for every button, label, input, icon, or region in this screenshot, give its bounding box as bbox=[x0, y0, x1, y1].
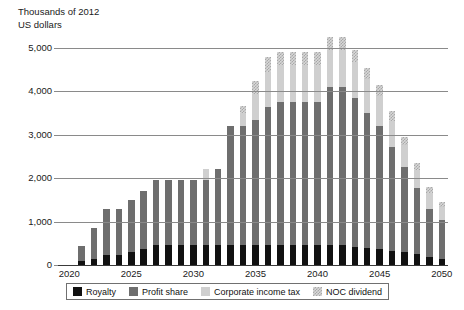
bar-segment-royalty bbox=[401, 252, 407, 265]
bar-segment-profit-share bbox=[252, 120, 258, 246]
gridline-4000 bbox=[63, 91, 448, 92]
bar-2037 bbox=[277, 52, 283, 265]
bar-segment-noc-dividend bbox=[314, 52, 320, 65]
bar-2040 bbox=[314, 52, 320, 265]
bar-segment-profit-share bbox=[376, 126, 382, 249]
bar-segment-royalty bbox=[327, 245, 333, 265]
bar-segment-noc-dividend bbox=[277, 52, 283, 65]
bar-segment-corporate-income-tax bbox=[439, 207, 445, 220]
x-tick-label-2035: 2035 bbox=[245, 268, 266, 279]
bar-segment-royalty bbox=[352, 247, 358, 265]
y-tick-label-3000: 3,000 bbox=[0, 129, 52, 140]
legend-label: Royalty bbox=[86, 287, 116, 297]
bar-2039 bbox=[302, 52, 308, 265]
bar-2023 bbox=[103, 209, 109, 265]
bar-2038 bbox=[290, 52, 296, 265]
bar-segment-royalty bbox=[227, 245, 233, 265]
bar-segment-profit-share bbox=[190, 180, 196, 246]
bar-segment-royalty bbox=[339, 245, 345, 265]
bar-segment-corporate-income-tax bbox=[265, 72, 271, 107]
bar-segment-profit-share bbox=[277, 102, 283, 245]
bar-segment-profit-share bbox=[78, 246, 84, 261]
bar-2041 bbox=[327, 37, 333, 265]
y-tick-label-4000: 4,000 bbox=[0, 85, 52, 96]
legend-item-royalty[interactable]: Royalty bbox=[73, 287, 116, 297]
legend-swatch-icon bbox=[129, 287, 138, 296]
plot-area bbox=[63, 48, 448, 265]
bar-segment-royalty bbox=[203, 245, 209, 265]
bar-2021 bbox=[78, 246, 84, 265]
gridline-3000 bbox=[63, 135, 448, 136]
gridline-5000 bbox=[63, 48, 448, 49]
bar-segment-corporate-income-tax bbox=[401, 145, 407, 168]
bar-2042 bbox=[339, 37, 345, 265]
x-axis-line bbox=[58, 265, 448, 266]
bar-segment-corporate-income-tax bbox=[240, 113, 246, 126]
legend-item-corporate-income-tax[interactable]: Corporate income tax bbox=[201, 287, 300, 297]
bar-segment-profit-share bbox=[165, 180, 171, 246]
y-tick-label-1000: 1,000 bbox=[0, 216, 52, 227]
bar-segment-corporate-income-tax bbox=[352, 62, 358, 98]
bar-2049 bbox=[426, 187, 432, 265]
bar-segment-profit-share bbox=[314, 102, 320, 245]
legend-swatch-icon bbox=[313, 287, 322, 296]
bar-segment-corporate-income-tax bbox=[339, 50, 345, 87]
bar-segment-noc-dividend bbox=[240, 106, 246, 113]
bar-segment-corporate-income-tax bbox=[277, 65, 283, 102]
x-tick-label-2020: 2020 bbox=[59, 268, 80, 279]
bar-segment-profit-share bbox=[364, 113, 370, 248]
y-tick-label-2000: 2,000 bbox=[0, 172, 52, 183]
legend-swatch-icon bbox=[73, 287, 82, 296]
bar-segment-royalty bbox=[302, 245, 308, 265]
bar-2031 bbox=[203, 169, 209, 265]
bar-2043 bbox=[352, 50, 358, 265]
bar-2032 bbox=[215, 169, 221, 265]
bar-segment-profit-share bbox=[203, 180, 209, 246]
y-tick-mark-3000 bbox=[54, 135, 63, 136]
bar-2026 bbox=[140, 191, 146, 265]
bar-2025 bbox=[128, 200, 134, 265]
bar-segment-noc-dividend bbox=[290, 52, 296, 65]
bar-segment-profit-share bbox=[153, 180, 159, 246]
bar-segment-profit-share bbox=[178, 180, 184, 246]
bar-segment-corporate-income-tax bbox=[426, 193, 432, 208]
legend-label: NOC dividend bbox=[326, 287, 382, 297]
bar-segment-noc-dividend bbox=[352, 50, 358, 62]
bar-2022 bbox=[91, 228, 97, 265]
bar-segment-royalty bbox=[364, 248, 370, 265]
bar-segment-noc-dividend bbox=[414, 163, 420, 170]
bar-segment-royalty bbox=[140, 249, 146, 265]
legend-item-profit-share[interactable]: Profit share bbox=[129, 287, 188, 297]
gridline-1000 bbox=[63, 222, 448, 223]
y-tick-mark-1000 bbox=[54, 222, 63, 223]
bar-segment-noc-dividend bbox=[364, 68, 370, 80]
legend-swatch-icon bbox=[201, 287, 210, 296]
bar-segment-corporate-income-tax bbox=[290, 65, 296, 102]
bar-segment-profit-share bbox=[140, 191, 146, 248]
bar-segment-royalty bbox=[290, 245, 296, 265]
y-tick-mark-2000 bbox=[54, 178, 63, 179]
bar-segment-corporate-income-tax bbox=[327, 50, 333, 87]
gridline-2000 bbox=[63, 178, 448, 179]
bar-segment-royalty bbox=[265, 245, 271, 265]
y-tick-label-5000: 5,000 bbox=[0, 42, 52, 53]
bar-segment-royalty bbox=[178, 245, 184, 265]
bar-segment-royalty bbox=[240, 245, 246, 265]
bar-segment-corporate-income-tax bbox=[376, 96, 382, 126]
bar-segment-noc-dividend bbox=[389, 111, 395, 121]
bar-segment-royalty bbox=[116, 255, 122, 265]
bar-segment-profit-share bbox=[290, 102, 296, 245]
bar-2036 bbox=[265, 57, 271, 265]
legend-item-noc-dividend[interactable]: NOC dividend bbox=[313, 287, 382, 297]
bar-2035 bbox=[252, 81, 258, 265]
bar-2047 bbox=[401, 137, 407, 265]
bar-segment-profit-share bbox=[401, 167, 407, 252]
bar-segment-royalty bbox=[128, 252, 134, 265]
bar-segment-royalty bbox=[153, 245, 159, 265]
bar-segment-royalty bbox=[103, 255, 109, 265]
bar-2033 bbox=[227, 126, 233, 265]
bar-segment-royalty bbox=[426, 257, 432, 265]
bar-segment-profit-share bbox=[91, 228, 97, 258]
bar-segment-royalty bbox=[414, 254, 420, 265]
bar-group bbox=[63, 48, 448, 265]
